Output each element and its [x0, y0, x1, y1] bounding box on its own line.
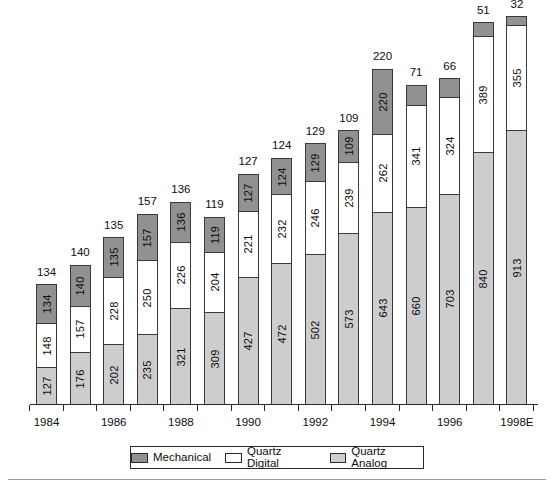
bar-segment-mech[interactable]: 119	[204, 217, 225, 253]
bar-segment-qd[interactable]: 232	[271, 194, 292, 264]
bar-segment-qd[interactable]: 341	[406, 105, 427, 208]
bar-segment-qd[interactable]: 389	[473, 36, 494, 153]
bar-1984[interactable]: 134148127134	[36, 285, 57, 405]
bar-segment-mech[interactable]	[406, 85, 427, 106]
bar-segment-qd[interactable]: 221	[238, 211, 259, 277]
bar-1995[interactable]: 34166071	[406, 86, 427, 405]
legend-item-mech[interactable]: Mechanical	[131, 452, 211, 464]
segment-value-label: 148	[41, 336, 52, 355]
segment-value-label: 502	[310, 320, 321, 339]
stacked-bar-chart: 1341481271341401571761401352282021351572…	[0, 0, 554, 488]
segment-value-label: 220	[377, 92, 388, 111]
bar-segment-qa[interactable]: 176	[70, 352, 91, 405]
bar-segment-qd[interactable]: 355	[506, 25, 527, 132]
segment-value-label: 427	[243, 331, 254, 350]
x-tick	[365, 405, 366, 411]
bar-segment-qa[interactable]: 202	[103, 344, 124, 405]
bar-segment-qa[interactable]: 573	[338, 233, 359, 405]
x-axis-label-1992: 1992	[303, 417, 329, 429]
segment-value-label: 246	[310, 209, 321, 228]
legend-label: Quartz Digital	[247, 446, 316, 469]
bar-segment-mech[interactable]: 134	[36, 284, 57, 324]
bar-segment-mech[interactable]	[439, 78, 460, 98]
bar-segment-qa[interactable]: 660	[406, 207, 427, 406]
bar-1992[interactable]: 129246502129	[305, 144, 326, 405]
bar-1994[interactable]: 220262643220	[372, 70, 393, 405]
bar-segment-mech[interactable]: 127	[238, 174, 259, 212]
bar-top-label: 136	[171, 184, 190, 196]
bar-segment-qa[interactable]: 840	[473, 152, 494, 405]
x-axis-label-1998E: 1998E	[500, 417, 533, 429]
bar-1988[interactable]: 136226321136	[170, 203, 191, 405]
bar-1998E[interactable]: 35591332	[506, 17, 527, 405]
plot-area: 1341481271341401571761401352282021351572…	[30, 8, 542, 405]
bar-segment-qd[interactable]: 148	[36, 323, 57, 368]
x-tick	[231, 405, 232, 411]
x-axis-label-1990: 1990	[235, 417, 261, 429]
bar-top-label: 51	[477, 5, 490, 17]
x-axis-label-1986: 1986	[101, 417, 127, 429]
bar-segment-qd[interactable]: 262	[372, 134, 393, 213]
bar-segment-qd[interactable]: 226	[170, 242, 191, 310]
x-tick	[432, 405, 433, 411]
bar-1989[interactable]: 119204309119	[204, 218, 225, 405]
bar-1991[interactable]: 124232472124	[271, 159, 292, 405]
bar-segment-mech[interactable]: 140	[70, 265, 91, 307]
bar-segment-mech[interactable]: 136	[170, 202, 191, 243]
bar-segment-mech[interactable]: 109	[338, 130, 359, 163]
legend-swatch-mech	[131, 453, 148, 463]
x-tick	[264, 405, 265, 411]
bar-1996[interactable]: 32470366	[439, 79, 460, 405]
segment-value-label: 157	[75, 320, 86, 339]
bar-segment-mech[interactable]: 129	[305, 143, 326, 182]
segment-value-label: 228	[108, 301, 119, 320]
bar-segment-qa[interactable]: 643	[372, 212, 393, 405]
bar-1985[interactable]: 140157176140	[70, 266, 91, 405]
segment-value-label: 643	[377, 299, 388, 318]
bar-segment-mech[interactable]: 135	[103, 237, 124, 278]
bar-1993[interactable]: 109239573109	[338, 131, 359, 405]
bar-segment-qa[interactable]: 472	[271, 263, 292, 405]
bar-segment-mech[interactable]	[473, 22, 494, 37]
bar-segment-qa[interactable]: 502	[305, 254, 326, 405]
bar-segment-qa[interactable]: 235	[137, 334, 158, 405]
segment-value-label: 140	[75, 276, 86, 295]
bar-1987[interactable]: 157250235157	[137, 215, 158, 405]
x-axis-label-1996: 1996	[437, 417, 463, 429]
x-tick	[499, 405, 500, 411]
bar-segment-qd[interactable]: 250	[137, 260, 158, 335]
bar-segment-qa[interactable]: 127	[36, 367, 57, 405]
bar-segment-mech[interactable]: 124	[271, 158, 292, 195]
bar-top-label: 32	[510, 0, 523, 10]
chart-legend: MechanicalQuartz DigitalQuartz Analog	[130, 446, 424, 469]
bar-segment-qd[interactable]: 246	[305, 181, 326, 255]
segment-value-label: 176	[75, 369, 86, 388]
bar-segment-qd[interactable]: 204	[204, 252, 225, 313]
legend-swatch-qa	[330, 453, 347, 463]
bar-1990[interactable]: 127221427127	[238, 175, 259, 405]
bar-segment-mech[interactable]: 157	[137, 214, 158, 261]
x-tick	[533, 405, 534, 411]
bar-1986[interactable]: 135228202135	[103, 238, 124, 405]
bar-segment-qa[interactable]: 321	[170, 308, 191, 405]
segment-value-label: 324	[444, 136, 455, 155]
segment-value-label: 913	[511, 258, 522, 277]
legend-item-qa[interactable]: Quartz Analog	[330, 446, 424, 469]
x-tick	[63, 405, 64, 411]
bar-segment-qa[interactable]: 309	[204, 312, 225, 405]
bar-top-label: 157	[138, 196, 157, 208]
bar-segment-qa[interactable]: 913	[506, 130, 527, 405]
segment-value-label: 136	[175, 213, 186, 232]
bar-segment-qd[interactable]: 324	[439, 97, 460, 194]
x-axis-label-1984: 1984	[34, 417, 60, 429]
bar-1997[interactable]: 38984051	[473, 23, 494, 405]
bar-segment-qa[interactable]: 703	[439, 194, 460, 405]
segment-value-label: 134	[41, 295, 52, 314]
bar-segment-qd[interactable]: 228	[103, 277, 124, 346]
bar-segment-qd[interactable]: 157	[70, 306, 91, 353]
bar-segment-qd[interactable]: 239	[338, 162, 359, 234]
bar-segment-qa[interactable]: 427	[238, 277, 259, 405]
bar-segment-mech[interactable]: 220	[372, 69, 393, 135]
legend-item-qd[interactable]: Quartz Digital	[225, 446, 315, 469]
x-tick	[399, 405, 400, 411]
